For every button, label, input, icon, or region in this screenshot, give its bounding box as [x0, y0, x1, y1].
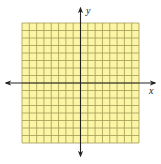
coordinate-grid-diagram: y x — [0, 0, 161, 164]
y-axis-label: y — [85, 5, 91, 16]
x-axis-label: x — [148, 85, 154, 96]
